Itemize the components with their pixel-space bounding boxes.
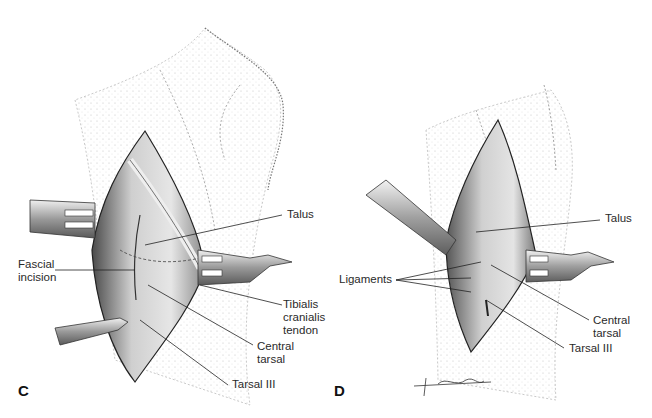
label-talus: Talus [605, 212, 632, 225]
panel-c-illustration: Talus Fascial incision Tibialis craniali… [0, 0, 326, 418]
label-fascial-incision: Fascial incision [18, 258, 56, 284]
panel-letter-c: C [18, 382, 29, 399]
label-central-tarsal: Central tarsal [593, 314, 630, 340]
panel-d-illustration: Talus Ligaments Central tarsal Tarsal II… [326, 0, 652, 418]
label-tibialis-cranialis-tendon: Tibialis cranialis tendon [283, 298, 325, 337]
panel-d-surgical-drawing [326, 0, 652, 418]
label-central-tarsal: Central tarsal [257, 340, 294, 366]
label-ligaments: Ligaments [339, 273, 392, 286]
label-talus: Talus [287, 208, 314, 221]
label-tarsal-iii: Tarsal III [232, 378, 275, 391]
label-tarsal-iii: Tarsal III [569, 342, 612, 355]
panel-letter-d: D [334, 382, 345, 399]
